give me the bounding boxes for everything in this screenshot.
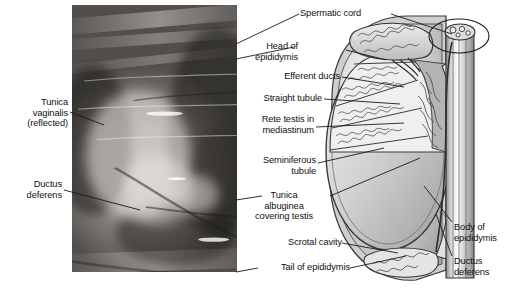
label-tunica-albuginea-covering-testis: Tunica albuginea covering testis — [238, 190, 330, 222]
epididymis-tail-coils — [374, 253, 429, 272]
label-efferent-ducts: Efferent ducts — [230, 71, 340, 82]
figure-canvas: Tunica vaginalis (reflected) Ductus defe… — [0, 0, 508, 290]
label-seminiferous-tubule: Seminiferous tubule — [234, 155, 316, 176]
testis-cut-surface — [330, 54, 446, 152]
head-of-epididymis-shape — [350, 23, 433, 60]
label-body-of-epididymis: Body of epididymis — [454, 222, 508, 243]
label-ductus-deferens-photo: Ductus deferens — [0, 179, 62, 200]
spermatic-cord-callout-ring — [429, 19, 489, 53]
rete-testis-network — [418, 68, 442, 148]
mediastinum-testis — [414, 60, 446, 152]
seminiferous-tubules — [336, 67, 407, 144]
photo-testis-highlight — [172, 175, 218, 215]
scrotal-cavity-space — [336, 24, 442, 273]
tunica-albuginea-layer — [332, 60, 444, 244]
dissection-photograph — [72, 5, 237, 272]
label-tunica-vaginalis-reflected: Tunica vaginalis (reflected) — [0, 97, 68, 129]
label-straight-tubule: Straight tubule — [228, 93, 322, 104]
scrotal-wall — [330, 16, 446, 280]
spermatic-cord-cross-section — [445, 24, 475, 40]
efferent-ducts-shape — [392, 58, 420, 80]
label-spermatic-cord: Spermatic cord — [300, 8, 396, 19]
epididymis-body-coils — [440, 74, 464, 244]
label-head-of-epididymis: Head of epididymis — [236, 41, 298, 62]
testis-septa — [330, 62, 428, 150]
testis-body — [326, 54, 450, 250]
tail-of-epididymis-shape — [364, 248, 438, 277]
cord-vessels — [450, 26, 470, 37]
epididymis-head-coils — [358, 25, 419, 52]
label-rete-testis-in-mediastinum: Rete testis in mediastinum — [228, 114, 314, 135]
label-scrotal-cavity: Scrotal cavity — [250, 237, 342, 248]
leader-spermatic-cord-left — [236, 14, 299, 44]
label-ductus-deferens-schematic: Ductus deferens — [454, 256, 508, 277]
ductus-deferens-shape — [436, 42, 452, 252]
label-tail-of-epididymis: Tail of epididymis — [240, 262, 350, 273]
